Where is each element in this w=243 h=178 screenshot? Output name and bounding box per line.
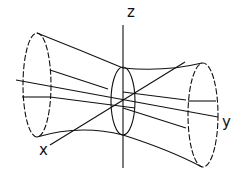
bottom-outline <box>37 130 202 167</box>
inner-line-5 <box>123 108 186 128</box>
inner-line-2 <box>123 92 186 100</box>
z-axis-label: z <box>127 3 135 21</box>
top-outline <box>37 33 202 69</box>
y-axis-label: y <box>222 113 231 131</box>
x-axis-label: x <box>39 141 48 159</box>
x-axis <box>50 62 185 145</box>
inner-line-4 <box>50 97 135 108</box>
hyperboloid-diagram: z y x <box>0 0 243 178</box>
y-axis <box>16 80 218 117</box>
inner-line-1 <box>50 70 108 89</box>
right-ellipse <box>188 63 218 167</box>
left-ellipse <box>23 33 51 137</box>
